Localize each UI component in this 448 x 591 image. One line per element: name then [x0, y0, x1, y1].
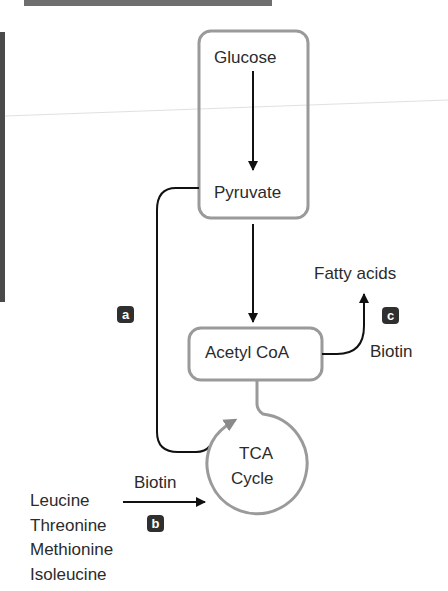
amino-acid-threonine: Threonine — [30, 514, 113, 539]
badge-c: c — [382, 307, 399, 324]
amino-acid-leucine: Leucine — [30, 489, 113, 514]
amino-acid-isoleucine: Isoleucine — [30, 563, 113, 588]
badge-b: b — [147, 515, 164, 532]
badge-a: a — [117, 306, 134, 323]
glucose-label: Glucose — [214, 48, 276, 68]
biotin-label-c: Biotin — [370, 342, 413, 362]
scan-line — [5, 100, 448, 116]
amino-acid-methionine: Methionine — [30, 538, 113, 563]
acetylcoa-to-fattyacids-arrow — [322, 294, 364, 354]
acetyl-coa-label: Acetyl CoA — [205, 343, 289, 363]
tca-label-line2: Cycle — [231, 469, 274, 489]
amino-acid-list: Leucine Threonine Methionine Isoleucine — [30, 489, 113, 587]
fatty-acids-label: Fatty acids — [314, 264, 396, 284]
pathway-a-line — [157, 188, 210, 452]
tca-label-line1: TCA — [239, 444, 273, 464]
biotin-label-b: Biotin — [134, 473, 177, 493]
pyruvate-label: Pyruvate — [214, 183, 281, 203]
